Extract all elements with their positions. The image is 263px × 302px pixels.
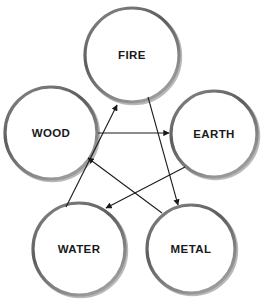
diagram-canvas <box>0 0 263 302</box>
circle-outline-water <box>33 203 125 295</box>
element-node-earth[interactable] <box>171 91 258 178</box>
circle-outline-fire <box>85 8 179 102</box>
five-elements-diagram: FIREWOODEARTHWATERMETAL <box>0 0 263 302</box>
element-node-wood[interactable] <box>5 87 98 180</box>
arrow-metal-to-wood <box>88 158 162 213</box>
circle-outline-metal <box>147 205 235 293</box>
element-circles-group <box>5 8 258 296</box>
circle-outline-earth <box>171 91 257 177</box>
element-node-metal[interactable] <box>147 205 236 294</box>
element-node-water[interactable] <box>33 203 126 296</box>
circle-outline-wood <box>5 87 97 179</box>
element-node-fire[interactable] <box>85 8 180 103</box>
